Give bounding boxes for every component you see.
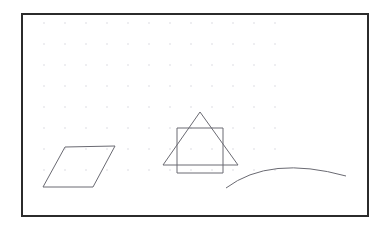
shape-parallelogram[interactable] bbox=[43, 146, 115, 187]
canvas-frame[interactable] bbox=[21, 13, 369, 217]
shape-triangle[interactable] bbox=[163, 112, 238, 165]
shape-layer bbox=[23, 15, 367, 215]
shapes-canvas-app bbox=[0, 0, 388, 228]
shape-arc[interactable] bbox=[226, 168, 346, 188]
